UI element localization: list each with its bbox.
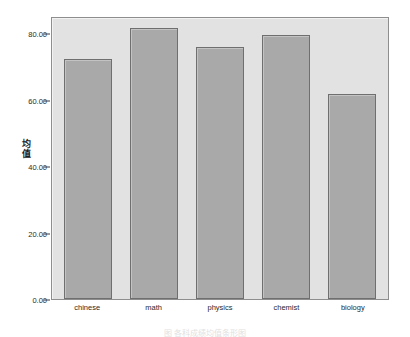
y-axis: 0.00 20.00 40.00 60.00 80.00 (0, 0, 47, 337)
x-tick-label-biology: biology (320, 303, 386, 317)
figure-caption: 图 各科成绩均值条形图 (0, 327, 410, 337)
y-tick-label: 20.00 (7, 229, 47, 238)
bar-chinese[interactable] (64, 59, 112, 299)
bar-chemist[interactable] (262, 35, 310, 299)
y-tick-label: 0.00 (7, 296, 47, 305)
bar-slot (55, 18, 121, 299)
bar-math[interactable] (130, 28, 178, 299)
bar-chart-figure: 均 值 0.00 20.00 40.00 60.00 80.00 (0, 0, 410, 337)
y-tick-mark (44, 34, 50, 35)
y-tick-mark (44, 233, 50, 234)
x-tick-label-physics: physics (187, 303, 253, 317)
y-tick-label: 80.00 (7, 30, 47, 39)
bar-slot (253, 18, 319, 299)
plot-area (51, 17, 389, 300)
y-tick-label: 40.00 (7, 163, 47, 172)
bar-slot (319, 18, 385, 299)
y-tick-label: 60.00 (7, 96, 47, 105)
bar-series (52, 18, 388, 299)
bar-slot (187, 18, 253, 299)
y-tick-mark (44, 300, 50, 301)
bar-slot (121, 18, 187, 299)
bar-biology[interactable] (328, 94, 376, 299)
y-tick-mark (44, 167, 50, 168)
x-axis: chinese math physics chemist biology (51, 303, 389, 317)
x-tick-label-math: math (120, 303, 186, 317)
x-tick-label-chinese: chinese (54, 303, 120, 317)
y-tick-mark (44, 100, 50, 101)
x-tick-label-chemist: chemist (253, 303, 319, 317)
plot-inner (52, 18, 388, 299)
bar-physics[interactable] (196, 47, 244, 299)
